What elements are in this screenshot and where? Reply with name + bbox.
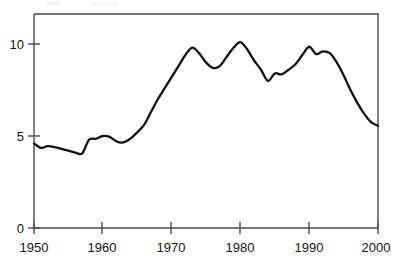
plot-frame [34, 14, 378, 228]
x-tick-labels: 1950 1960 1970 1980 1990 2000 [20, 240, 391, 255]
x-tick-label-2000: 2000 [362, 240, 391, 255]
x-tick-label-1980: 1980 [226, 240, 255, 255]
scan-artifact [92, 2, 118, 5]
data-series-line [34, 42, 378, 154]
y-tick-labels: 0 5 10 [10, 37, 24, 236]
x-tick-label-1970: 1970 [157, 240, 186, 255]
x-tick-label-1990: 1990 [295, 240, 324, 255]
scan-artifact [46, 1, 60, 5]
y-tick-label-10: 10 [10, 37, 24, 52]
chart-plot-area: 0 5 10 1950 1960 1970 1980 1990 2000 [0, 0, 398, 262]
x-tick-label-1960: 1960 [88, 240, 117, 255]
y-tick-label-0: 0 [17, 221, 24, 236]
x-tick-label-1950: 1950 [20, 240, 49, 255]
line-chart: 0 5 10 1950 1960 1970 1980 1990 2000 [0, 0, 398, 262]
y-tick-label-5: 5 [17, 129, 24, 144]
